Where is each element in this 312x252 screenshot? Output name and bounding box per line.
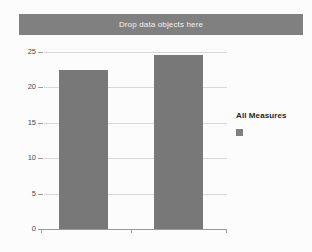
y-tick-mark (38, 52, 43, 53)
y-tick-label-text: 15 (6, 119, 36, 127)
chart-app: Drop data objects here 0510152025 All Me… (0, 0, 312, 252)
y-tick-mark (38, 123, 43, 124)
y-tick-label: 5 (0, 190, 36, 198)
x-tick-mark (41, 229, 42, 233)
y-tick-mark (38, 87, 43, 88)
bar[interactable] (59, 70, 108, 229)
y-tick-mark (38, 158, 43, 159)
y-tick-label: 0 (0, 225, 36, 233)
y-tick-label: 10 (0, 154, 36, 162)
legend[interactable]: All Measures (236, 112, 306, 136)
y-tick-label-text: 5 (6, 190, 36, 198)
gridline (44, 52, 227, 53)
y-tick-label: 20 (0, 83, 36, 91)
legend-title: All Measures (236, 112, 306, 120)
x-tick-mark (131, 229, 132, 233)
y-tick-label-text: 25 (6, 48, 36, 56)
x-tick-mark (226, 229, 227, 233)
bar[interactable] (154, 55, 203, 229)
y-tick-label: 15 (0, 119, 36, 127)
y-tick-label: 25 (0, 48, 36, 56)
axis-baseline (41, 229, 227, 230)
y-tick-label-text: 20 (6, 83, 36, 91)
y-tick-mark (38, 194, 43, 195)
legend-swatch-all-measures (236, 129, 243, 136)
y-tick-label-text: 10 (6, 154, 36, 162)
y-tick-label-text: 0 (6, 225, 36, 233)
